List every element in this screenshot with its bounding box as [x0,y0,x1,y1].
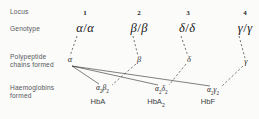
genotype-allele-left-4: γ [238,21,243,35]
row-label-locus: Locus [10,8,29,16]
alpha-chain-connectors [72,66,210,86]
haemoglobin-formula-hba: α2β2 [96,83,109,94]
row-label-genotype: Genotype [10,25,40,33]
genotype-dashed-line-0 [70,36,77,56]
genotype-locus-4: γ/γ [224,20,259,36]
hba2-delta-subscript: 2 [165,89,168,95]
polypeptide-chain-gamma: γ [239,57,253,66]
genotype-locus-1: α/α [64,20,106,36]
genotype-locus-2: β/β [118,20,160,36]
hba2-name-subscript: 2 [162,102,165,108]
dashed-genotype-connectors [70,36,245,58]
locus-number-3: 3 [180,9,196,17]
locus-number-4: 4 [237,9,253,17]
genotype-locus-3: δ/δ [166,20,208,36]
genotype-allele-left-3: δ [179,21,185,35]
genotype-allele-right-2: β [141,21,147,35]
chain-to-haemoglobin-connectors [112,64,243,87]
haemoglobin-formula-hbf: α2γ2 [207,85,219,96]
genotype-allele-right-4: γ [247,21,252,35]
genotype-allele-left-2: β [130,21,136,35]
genotype-dashed-line-1 [133,36,138,56]
gamma-to-hbf-line [221,66,243,87]
hba-name-text: HbA [91,97,106,106]
polypeptide-chain-delta: δ [182,55,196,64]
genotype-allele-right-3: δ [189,21,195,35]
polypeptide-chain-beta: β [132,55,146,64]
hba-beta-subscript: 2 [106,88,109,94]
haemoglobin-name-hba: HbA [78,97,118,108]
hbf-name-text: HbF [201,97,215,106]
polypeptide-chain-alpha: α [63,55,77,64]
hbf-gamma-subscript: 2 [217,90,220,96]
locus-number-2: 2 [131,9,147,17]
alpha-to-hbf-line [72,66,210,86]
haemoglobin-formula-hba2: α2δ2 [155,84,168,95]
row-label-haemoglobins-formed: Haemoglobins formed [10,84,54,100]
haemoglobin-name-hbf: HbF [188,97,228,108]
haemoglobin-genetics-diagram: Locus Genotype Polypeptide chains formed… [0,0,259,119]
hba2-name-text: HbA [147,97,162,106]
row-label-polypeptide-chains-formed: Polypeptide chains formed [10,53,54,69]
haemoglobin-name-hba2: HbA2 [136,97,176,108]
genotype-allele-right-1: α [87,21,94,35]
genotype-allele-left-1: α [76,21,83,35]
genotype-dashed-line-2 [181,36,188,56]
locus-number-1: 1 [77,9,93,17]
genotype-dashed-line-3 [239,36,245,58]
